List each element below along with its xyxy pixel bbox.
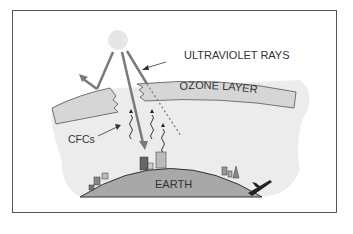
ozone-label-layer: OZONE LAYER [0,0,353,234]
ozone-layer-label: OZONE LAYER [179,79,259,95]
